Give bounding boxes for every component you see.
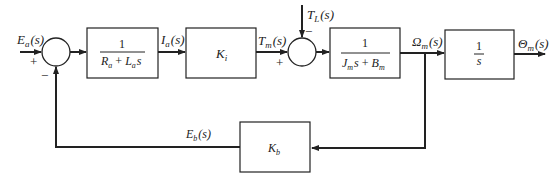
mechanical-denominator: Jms+Bm bbox=[342, 56, 385, 72]
armature-block bbox=[87, 28, 158, 78]
armature-denominator: Ra+Las bbox=[100, 54, 142, 70]
sj1-minus-sign: − bbox=[41, 68, 48, 83]
sj1-plus-sign: + bbox=[30, 54, 37, 69]
sj2-minus-sign: − bbox=[305, 24, 312, 39]
label-Ea: Ea(s) bbox=[16, 32, 44, 49]
armature-numerator: 1 bbox=[119, 37, 125, 51]
label-Eb: Eb(s) bbox=[185, 127, 211, 143]
label-Omega-m: Ωm(s) bbox=[412, 34, 443, 51]
back-emf-constant-label: Kb bbox=[267, 141, 280, 157]
label-Ia: Ia(s) bbox=[160, 32, 185, 49]
label-TL: TL(s) bbox=[307, 7, 334, 24]
mechanical-numerator: 1 bbox=[362, 36, 368, 50]
block-diagram: Ea(s) + − Ia(s) Tm(s) + − TL(s) Ωm(s) Θm… bbox=[0, 0, 557, 185]
summing-junction-2 bbox=[288, 38, 316, 66]
label-Tm: Tm(s) bbox=[258, 33, 286, 50]
integrator-numerator: 1 bbox=[476, 39, 482, 53]
sj2-plus-sign: + bbox=[276, 55, 283, 70]
feedback-return-line bbox=[56, 67, 240, 147]
label-Theta-m: Θm(s) bbox=[518, 36, 549, 53]
summing-junction-1 bbox=[42, 38, 70, 66]
integrator-denominator: s bbox=[477, 54, 482, 68]
torque-constant-label: Ki bbox=[215, 46, 228, 63]
